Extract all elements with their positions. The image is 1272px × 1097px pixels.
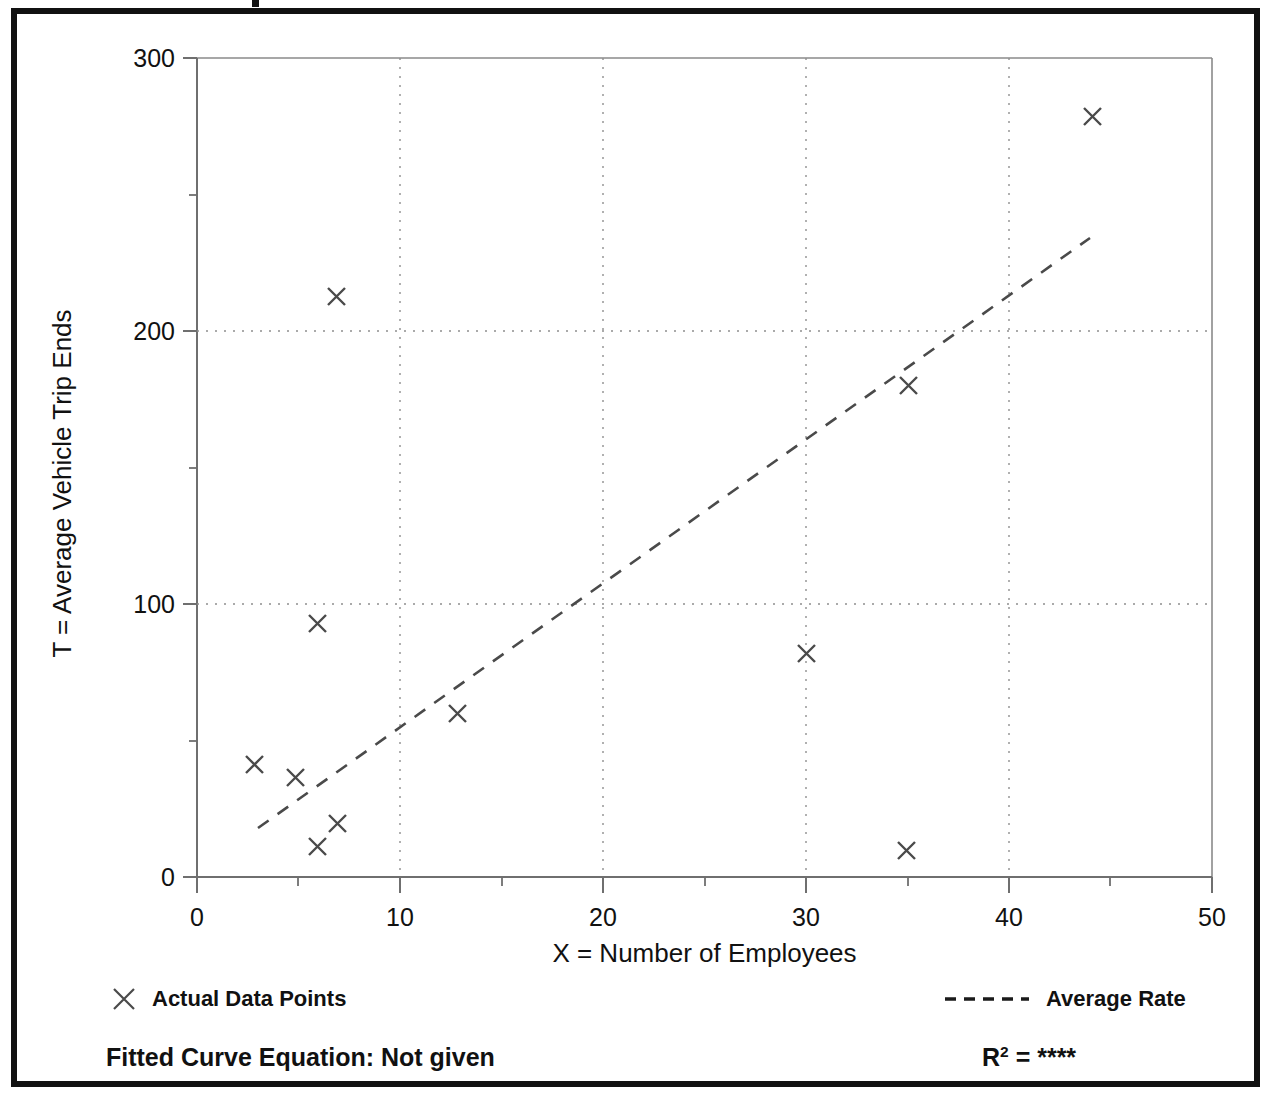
r-squared-exponent: 2 xyxy=(1000,1043,1009,1060)
x-tick-label-30: 30 xyxy=(792,903,820,932)
x-marker-icon xyxy=(112,987,136,1011)
r-squared-prefix: R xyxy=(982,1043,1000,1071)
major-ticks xyxy=(183,58,1212,893)
y-tick-label-300: 300 xyxy=(120,44,175,73)
r-squared-value: = **** xyxy=(1009,1043,1076,1071)
x-tick-label-20: 20 xyxy=(589,903,617,932)
x-tick-label-50: 50 xyxy=(1198,903,1226,932)
legend-actual-data-points-label: Actual Data Points xyxy=(152,986,346,1012)
r-squared-label: R2 = **** xyxy=(982,1043,1076,1072)
minor-ticks xyxy=(189,195,1110,886)
x-tick-label-10: 10 xyxy=(386,903,414,932)
x-tick-label-40: 40 xyxy=(995,903,1023,932)
y-tick-label-100: 100 xyxy=(120,590,175,619)
y-axis-title: T = Average Vehicle Trip Ends xyxy=(47,254,78,714)
plot-graphics xyxy=(0,0,1272,1097)
fitted-curve-equation-label: Fitted Curve Equation: Not given xyxy=(106,1043,495,1072)
grid-lines xyxy=(197,58,1212,877)
x-axis-title: X = Number of Employees xyxy=(197,938,1212,969)
y-tick-label-0: 0 xyxy=(120,863,175,892)
y-tick-label-200: 200 xyxy=(120,317,175,346)
x-tick-label-0: 0 xyxy=(190,903,204,932)
chart-page: 300 200 100 0 0 10 20 30 40 50 T = Avera… xyxy=(0,0,1272,1097)
data-point-markers xyxy=(246,108,1101,859)
legend-average-rate-label: Average Rate xyxy=(1046,986,1186,1012)
plot-area: 300 200 100 0 0 10 20 30 40 50 T = Avera… xyxy=(0,0,1272,1097)
average-rate-line xyxy=(258,238,1090,828)
axis-lines xyxy=(197,58,1212,877)
dashed-line-icon xyxy=(945,997,1029,1001)
